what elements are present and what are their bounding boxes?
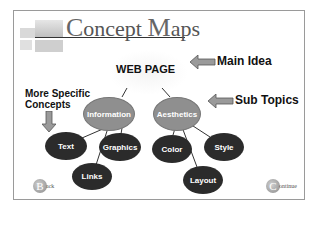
continue-button[interactable]: C ontinue bbox=[266, 179, 297, 193]
arrow-down-icon bbox=[42, 111, 56, 133]
sub-topic-node-information: Information bbox=[83, 97, 135, 131]
arrow-left-icon bbox=[190, 55, 216, 69]
back-icon: B bbox=[33, 179, 47, 193]
concept-node-style: Style bbox=[204, 133, 244, 161]
sub-topics-annotation: Sub Topics bbox=[235, 93, 299, 107]
concept-node-links: Links bbox=[72, 163, 112, 190]
concept-node-text: Text bbox=[45, 132, 87, 160]
back-button[interactable]: B ack bbox=[33, 179, 54, 193]
continue-icon: C bbox=[266, 179, 280, 193]
more-specific-annotation: More Specific Concepts bbox=[25, 88, 90, 110]
arrow-left-icon bbox=[208, 94, 234, 108]
main-idea-annotation: Main Idea bbox=[217, 54, 272, 68]
concept-node-layout: Layout bbox=[183, 166, 223, 194]
concept-node-color: Color bbox=[152, 135, 192, 163]
sub-topic-node-aesthetics: Aesthetics bbox=[153, 97, 201, 131]
concept-node-graphics: Graphics bbox=[99, 133, 141, 161]
